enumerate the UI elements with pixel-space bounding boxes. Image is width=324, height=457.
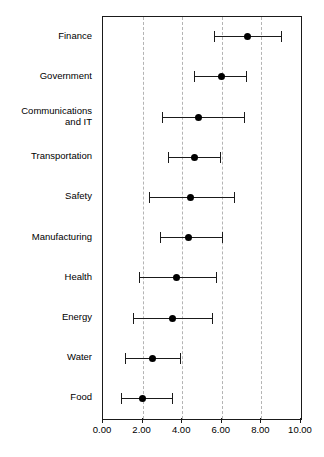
error-bar-cap-high <box>244 112 245 123</box>
x-tick <box>102 418 103 423</box>
x-tick-label: 4.00 <box>161 424 201 435</box>
data-row[interactable] <box>103 232 301 244</box>
data-point-marker[interactable] <box>187 194 194 201</box>
error-bar-cap-low <box>121 393 122 404</box>
category-label: Government <box>0 70 92 81</box>
x-tick-label: 6.00 <box>201 424 241 435</box>
error-bar-cap-low <box>149 192 150 203</box>
category-label: Safety <box>0 190 92 201</box>
data-point-marker[interactable] <box>185 234 192 241</box>
error-bar-cap-low <box>125 353 126 364</box>
data-row[interactable] <box>103 353 301 365</box>
error-bar-cap-low <box>162 112 163 123</box>
data-row[interactable] <box>103 112 301 124</box>
x-tick <box>221 418 222 423</box>
data-point-marker[interactable] <box>149 355 156 362</box>
x-tick-label: 0.00 <box>82 424 122 435</box>
error-bar-cap-high <box>246 71 247 82</box>
error-bar-line <box>162 117 243 118</box>
error-bar-cap-high <box>222 232 223 243</box>
error-bar-cap-high <box>212 313 213 324</box>
data-point-marker[interactable] <box>139 395 146 402</box>
data-point-marker[interactable] <box>195 114 202 121</box>
data-point-marker[interactable] <box>191 154 198 161</box>
error-bar-cap-low <box>194 71 195 82</box>
category-label: Water <box>0 351 92 362</box>
x-tick <box>260 418 261 423</box>
error-bar-cap-low <box>160 232 161 243</box>
data-row[interactable] <box>103 31 301 43</box>
x-tick <box>181 418 182 423</box>
x-axis: 0.002.004.006.008.0010.00 <box>102 418 302 448</box>
data-point-marker[interactable] <box>244 33 251 40</box>
plot-area <box>103 17 301 419</box>
error-bar-cap-high <box>172 393 173 404</box>
error-bar-cap-high <box>216 272 217 283</box>
category-label: Manufacturing <box>0 231 92 242</box>
error-bar-cap-low <box>133 313 134 324</box>
data-row[interactable] <box>103 393 301 405</box>
x-tick-label: 2.00 <box>122 424 162 435</box>
category-label: Health <box>0 271 92 282</box>
category-label: Food <box>0 391 92 402</box>
x-tick <box>142 418 143 423</box>
plot-panel <box>102 16 302 420</box>
data-row[interactable] <box>103 272 301 284</box>
category-label: Transportation <box>0 150 92 161</box>
error-bar-cap-low <box>168 152 169 163</box>
error-bar-cap-high <box>234 192 235 203</box>
data-point-marker[interactable] <box>173 274 180 281</box>
x-tick-label: 8.00 <box>240 424 280 435</box>
data-point-marker[interactable] <box>169 315 176 322</box>
error-bar-cap-high <box>180 353 181 364</box>
category-axis-labels: FinanceGovernmentCommunications and ITTr… <box>0 16 96 418</box>
data-row[interactable] <box>103 71 301 83</box>
category-label: Finance <box>0 30 92 41</box>
error-bar-cap-high <box>220 152 221 163</box>
chart-figure: FinanceGovernmentCommunications and ITTr… <box>0 0 324 457</box>
category-label: Communications and IT <box>0 105 92 127</box>
error-bar-cap-low <box>214 31 215 42</box>
x-tick-label: 10.00 <box>280 424 320 435</box>
error-bar-cap-high <box>281 31 282 42</box>
x-tick <box>300 418 301 423</box>
data-point-marker[interactable] <box>218 73 225 80</box>
category-label: Energy <box>0 311 92 322</box>
data-row[interactable] <box>103 192 301 204</box>
error-bar-cap-low <box>139 272 140 283</box>
data-row[interactable] <box>103 152 301 164</box>
data-row[interactable] <box>103 313 301 325</box>
error-bar-line <box>121 398 172 399</box>
